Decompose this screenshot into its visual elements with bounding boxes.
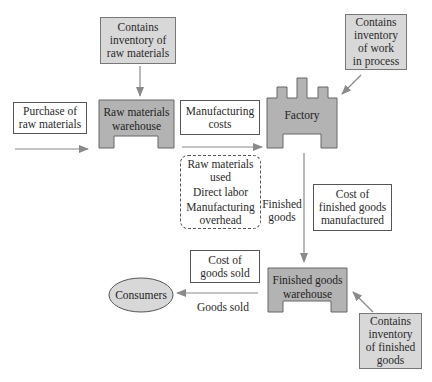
box-line: Cost of [319, 188, 386, 201]
manufacturing-costs-box: Manufacturing costs [180, 100, 260, 135]
note-line: Contains [366, 315, 416, 328]
box-line: finished goods [319, 201, 386, 214]
note-line: Contains [353, 16, 399, 29]
note-line: inventory of [107, 34, 169, 47]
component-line: Manufacturing [186, 201, 254, 214]
label-line: goods [261, 211, 303, 224]
cost-finished-goods-manufactured-box: Cost of finished goods manufactured [313, 184, 392, 231]
consumers-label: Consumers [109, 288, 173, 302]
manufacturing-components-box: Raw materials used Direct labor Manufact… [180, 155, 261, 229]
component-line: Raw materials [187, 158, 253, 171]
arrow-inv-wip-to-factory [342, 75, 361, 94]
box-line: Cost of [200, 254, 250, 267]
box-line: costs [186, 118, 254, 131]
arrow-inv-fg-to-warehouse [353, 292, 373, 312]
component-line: overhead [199, 214, 241, 227]
shape-line: warehouse [99, 119, 174, 133]
inventory-finished-goods-note: Contains inventory of finished goods [359, 313, 422, 369]
note-line: inventory [353, 29, 399, 42]
note-line: raw materials [107, 47, 169, 60]
raw-materials-warehouse-label: Raw materials warehouse [99, 105, 174, 133]
box-line: manufactured [319, 214, 386, 227]
note-line: in process [353, 55, 399, 68]
note-line: Contains [107, 21, 169, 34]
note-line: of work [353, 42, 399, 55]
component-line: used [210, 171, 231, 184]
component-line: Direct labor [193, 186, 248, 199]
box-line: raw materials [19, 118, 81, 131]
cost-of-goods-sold-box: Cost of goods sold [190, 250, 260, 283]
factory-label: Factory [267, 108, 337, 122]
box-line: Manufacturing [186, 105, 254, 118]
finished-goods-flow-label: Finished goods [261, 198, 303, 224]
box-line: Purchase of [19, 105, 81, 118]
box-line: goods sold [200, 267, 250, 280]
goods-sold-label: Goods sold [190, 301, 256, 314]
shape-line: warehouse [268, 287, 347, 301]
label-line: Finished [261, 198, 303, 211]
inventory-wip-note: Contains inventory of work in process [345, 14, 407, 70]
shape-line: Raw materials [99, 105, 174, 119]
shape-line: Finished goods [268, 273, 347, 287]
purchase-raw-materials-box: Purchase of raw materials [13, 102, 87, 134]
inventory-raw-materials-note: Contains inventory of raw materials [100, 17, 176, 64]
note-line: of finished [366, 341, 416, 354]
note-line: goods [366, 354, 416, 367]
note-line: inventory [366, 328, 416, 341]
finished-goods-warehouse-label: Finished goods warehouse [268, 273, 347, 301]
